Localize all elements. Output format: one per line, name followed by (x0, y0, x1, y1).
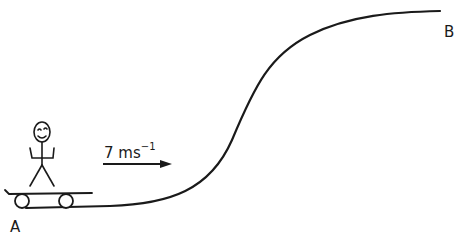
track-curve (26, 11, 440, 208)
point-b-label: B (444, 25, 454, 40)
skateboard-icon (5, 190, 92, 208)
skateboard-ramp-diagram: A B 7 ms−1 (0, 0, 455, 239)
velocity-label: 7 ms−1 (104, 144, 156, 161)
velocity-unit: ms (118, 144, 140, 162)
velocity-exponent: −1 (141, 141, 156, 152)
point-a-label: A (10, 220, 20, 235)
velocity-value: 7 (104, 144, 114, 162)
stick-figure-icon (30, 122, 54, 186)
